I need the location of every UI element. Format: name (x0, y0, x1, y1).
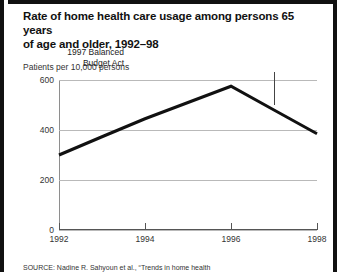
annotation-pointer-line (274, 72, 275, 105)
x-tick-1994: 1994 (136, 234, 155, 244)
annotation-label: 1997 Balanced Budget Act (4, 47, 124, 68)
annotation-line-2: Budget Act (83, 58, 124, 68)
data-series-line (59, 80, 317, 230)
x-tick-1998: 1998 (308, 234, 327, 244)
y-tick-200: 200 (40, 175, 54, 185)
page-title: Rate of home health care usage among per… (23, 9, 323, 51)
source-note: SOURCE: Nadine R. Sahyoun et al., “Trend… (23, 264, 323, 272)
plot-area: 0200400600 1992199419961998 (59, 80, 317, 230)
x-tick-1992: 1992 (50, 234, 69, 244)
y-tick-600: 600 (40, 75, 54, 85)
y-tick-400: 400 (40, 125, 54, 135)
annotation-line-1: 1997 Balanced (67, 47, 124, 57)
title-line-1: Rate of home health care usage among per… (23, 9, 323, 37)
figure-panel: Rate of home health care usage among per… (0, 0, 337, 272)
x-tick-1996: 1996 (222, 234, 241, 244)
gridline-0 (59, 230, 317, 231)
x-tick-mark-1998 (317, 223, 318, 230)
top-rule (8, 0, 337, 4)
